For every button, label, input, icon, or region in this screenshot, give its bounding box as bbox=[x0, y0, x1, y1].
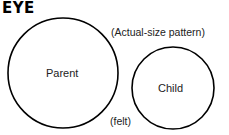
parent-label: Parent bbox=[46, 67, 78, 79]
actual-size-note: (Actual-size pattern) bbox=[111, 26, 205, 38]
child-label: Child bbox=[158, 82, 183, 94]
material-label: (felt) bbox=[110, 115, 131, 127]
